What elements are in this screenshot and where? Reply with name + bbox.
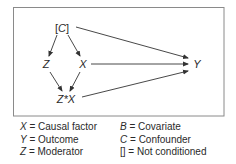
legend-item-confounder: C = Confounder: [120, 134, 206, 147]
edge-c-to-x: [68, 35, 80, 56]
node-outcome: Y: [193, 58, 200, 70]
legend-item-moderator: Z = Moderator: [20, 146, 97, 159]
legend-text: = Confounder: [127, 134, 191, 145]
legend-symbol: X: [20, 121, 27, 132]
legend-text: = Not conditioned: [126, 146, 207, 157]
node-moderator: Z: [43, 58, 50, 70]
legend-item-causal-factor: X = Causal factor: [20, 121, 97, 134]
legend-item-not-conditioned: [] = Not conditioned: [120, 146, 206, 159]
legend-left-column: X = Causal factor Y = Outcome Z = Modera…: [20, 121, 97, 159]
edge-x-to-zx: [70, 72, 80, 91]
node-interaction: Z*X: [57, 93, 75, 105]
node-causal-factor: X: [79, 58, 86, 70]
bracket-close: ]: [66, 22, 69, 34]
edge-c-to-y: [76, 27, 188, 58]
edge-c-to-z: [49, 35, 57, 56]
node-confounder-label: C: [58, 22, 66, 34]
legend-item-covariate: B = Covariate: [120, 121, 206, 134]
legend-text: = Causal factor: [27, 121, 97, 132]
legend-item-outcome: Y = Outcome: [20, 134, 97, 147]
legend-text: = Outcome: [27, 134, 79, 145]
edges-group: [49, 27, 188, 97]
edge-zx-to-y: [82, 71, 188, 97]
legend-symbol: Y: [20, 134, 27, 145]
legend-text: = Moderator: [26, 146, 83, 157]
causal-diagram: [C] Z X Z*X Y: [0, 0, 236, 118]
edge-z-to-zx: [50, 72, 62, 91]
legend-symbol: B: [120, 121, 127, 132]
legend-text: = Covariate: [127, 121, 181, 132]
legend-right-column: B = Covariate C = Confounder [] = Not co…: [120, 121, 206, 159]
node-confounder: [C]: [55, 22, 69, 34]
